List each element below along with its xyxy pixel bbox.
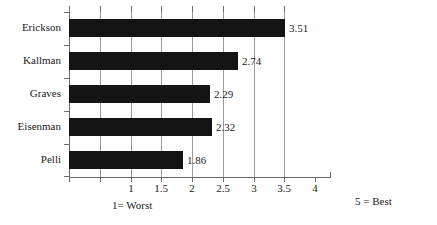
y-axis-label-2: Graves [0, 86, 65, 100]
tick-left-1 [64, 45, 70, 46]
tick-left-3 [64, 111, 70, 112]
x-axis-endcap [330, 172, 331, 178]
y-axis-label-3: Eisenman [0, 119, 65, 133]
bar-value-graves: 2.29 [214, 86, 233, 102]
tick-top-1-5 [161, 6, 162, 12]
tick-left-0 [64, 12, 70, 13]
x-tick-label-3: 3 [251, 181, 257, 195]
bar-value-kallman: 2.74 [242, 53, 261, 69]
bar-chart: Erickson Kallman Graves Eisenman Pelli [0, 0, 437, 225]
tick-left-2 [64, 78, 70, 79]
tick-left-4 [64, 144, 70, 145]
tick-top-3 [254, 6, 255, 12]
x-tick-label-1: 1 [128, 181, 134, 195]
annotation-best: 5 = Best [355, 194, 392, 208]
plot-area: 3.51 2.74 2.29 2.32 1.86 [69, 12, 315, 177]
tick-top-3-5 [284, 6, 285, 12]
x-tick-label-4: 4 [312, 181, 318, 195]
x-tick-label-2-5: 2.5 [216, 181, 230, 195]
tick-top-0-5 [100, 6, 101, 12]
x-tick-label-2: 2 [189, 181, 195, 195]
bar-kallman[interactable] [69, 52, 238, 70]
x-tick-label-1-5: 1.5 [154, 181, 168, 195]
y-axis-label-4: Pelli [0, 152, 65, 166]
annotation-worst: 1= Worst [112, 198, 152, 212]
bar-pelli[interactable] [69, 151, 183, 169]
bar-eisenman[interactable] [69, 118, 212, 136]
y-axis-labels: Erickson Kallman Graves Eisenman Pelli [0, 12, 65, 177]
tick-top-1 [131, 6, 132, 12]
tick-top-2 [192, 6, 193, 12]
bar-value-pelli: 1.86 [187, 152, 206, 168]
x-tick-label-3-5: 3.5 [277, 181, 291, 195]
y-axis-label-1: Kallman [0, 53, 65, 67]
bar-value-erickson: 3.51 [289, 20, 308, 36]
tick-top-2-5 [223, 6, 224, 12]
bar-erickson[interactable] [69, 19, 285, 37]
y-axis-label-0: Erickson [0, 20, 65, 34]
bar-graves[interactable] [69, 85, 210, 103]
bar-value-eisenman: 2.32 [216, 119, 235, 135]
